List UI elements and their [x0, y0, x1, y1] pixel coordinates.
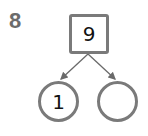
left-arrow-icon	[61, 54, 88, 79]
right-arrow-icon	[88, 54, 115, 79]
whole-box[interactable]: 9	[69, 14, 109, 54]
part-circle-right[interactable]	[97, 81, 138, 122]
part-circle-left[interactable]: 1	[38, 81, 79, 122]
